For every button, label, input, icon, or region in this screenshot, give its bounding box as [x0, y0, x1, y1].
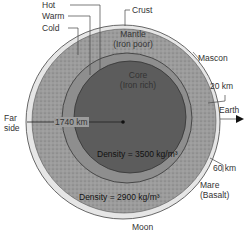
label-crust: Crust: [132, 5, 152, 15]
center-dot: [121, 120, 125, 124]
label-mascon: Mascon: [198, 53, 228, 63]
label-hot: Hot: [42, 0, 55, 10]
label-mantle-density: Density = 2900 kg/m³: [79, 192, 160, 202]
label-warm: Warm: [42, 11, 64, 21]
label-moon: Moon: [132, 222, 153, 232]
label-earth: Earth: [219, 105, 239, 115]
earth-arrow-icon: [236, 115, 244, 123]
label-mantle: Mantle (Iron poor): [108, 29, 158, 49]
label-far-side: Far side: [4, 113, 20, 133]
label-core-density: Density = 3500 kg/m³: [97, 149, 178, 159]
label-20km: 20 km: [210, 81, 233, 91]
crust-leader: [125, 10, 130, 26]
label-60km: 60 km: [213, 163, 236, 173]
label-radius: 1740 km: [54, 117, 89, 127]
label-cold: Cold: [42, 23, 59, 33]
label-mare: Mare (Basalt): [200, 180, 229, 200]
label-core: Core (Iron rich): [113, 70, 163, 90]
